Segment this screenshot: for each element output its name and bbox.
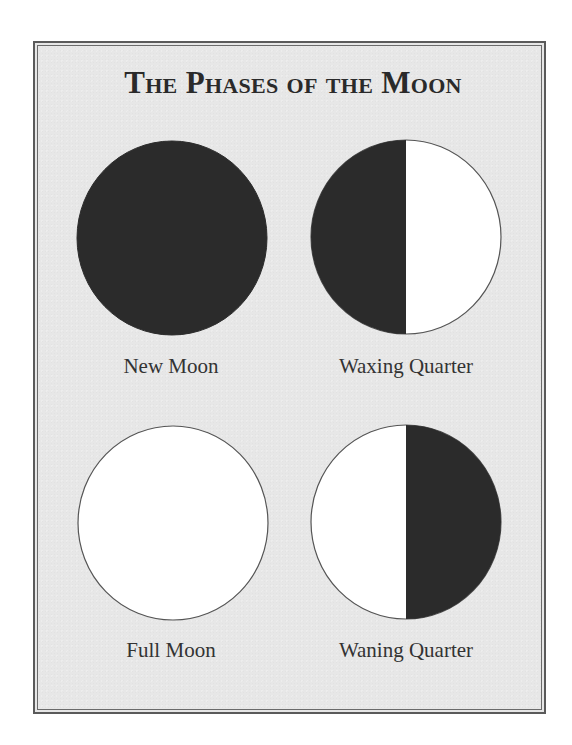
new-moon-graphic bbox=[76, 140, 268, 336]
full-moon-graphic bbox=[77, 425, 269, 621]
waning-quarter-icon bbox=[310, 424, 502, 620]
phase-label-new-moon: New Moon bbox=[61, 354, 281, 378]
phase-label-waning-quarter: Waning Quarter bbox=[296, 638, 516, 662]
waxing-quarter-graphic bbox=[310, 139, 502, 335]
phase-label-waxing-quarter: Waxing Quarter bbox=[296, 354, 516, 378]
waxing-quarter-icon bbox=[310, 139, 502, 335]
diagram-title: The Phases of the Moon bbox=[0, 66, 572, 100]
phase-label-full-moon: Full Moon bbox=[61, 638, 281, 662]
full-moon-icon bbox=[77, 425, 269, 621]
new-moon-icon bbox=[76, 140, 268, 336]
waning-quarter-graphic bbox=[310, 424, 502, 620]
